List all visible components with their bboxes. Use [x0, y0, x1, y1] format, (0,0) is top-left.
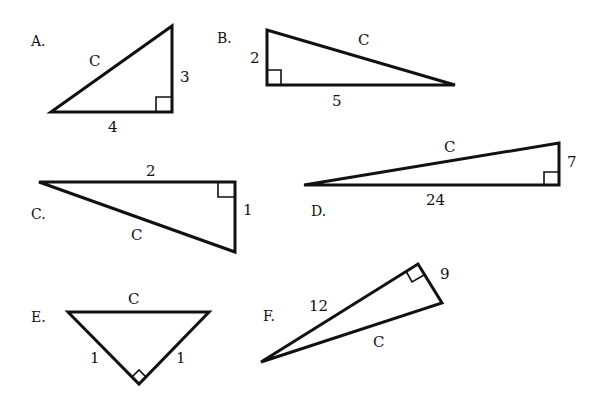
triangle-c: C. 2 1 C: [31, 162, 253, 252]
triangle-c-vertical-leg-label: 1: [243, 201, 253, 219]
right-angle-marker: [267, 70, 281, 85]
triangle-f: F. 12 9 C: [261, 264, 450, 362]
triangle-f-shape: [261, 264, 442, 362]
triangle-c-hypotenuse-label: C: [131, 226, 142, 244]
triangle-d-label: D.: [311, 203, 326, 219]
right-triangles-diagram: A. C 3 4 B. C 2 5 C. 2 1 C D. C 7 24 E. …: [0, 0, 601, 408]
triangle-b-hypotenuse-label: C: [358, 31, 369, 49]
triangle-b: B. C 2 5: [217, 30, 455, 110]
triangle-e-label: E.: [31, 309, 46, 325]
triangle-f-long-leg-label: 12: [309, 297, 328, 315]
triangle-e-right-leg-label: 1: [176, 349, 186, 367]
triangle-c-label: C.: [31, 206, 46, 222]
triangle-a-label: A.: [30, 33, 46, 49]
triangle-e: E. C 1 1: [31, 290, 209, 384]
triangle-d-hypotenuse-label: C: [444, 138, 455, 156]
triangle-b-horizontal-leg-label: 5: [332, 92, 342, 110]
triangle-d: D. C 7 24: [304, 138, 577, 219]
right-angle-marker: [132, 370, 146, 377]
triangle-e-hypotenuse-label: C: [128, 290, 139, 308]
triangle-b-label: B.: [217, 30, 232, 46]
triangle-a-hypotenuse-label: C: [89, 52, 100, 70]
triangle-d-horizontal-leg-label: 24: [426, 191, 445, 209]
triangle-f-short-leg-label: 9: [440, 265, 450, 283]
triangle-f-hypotenuse-label: C: [373, 333, 384, 351]
triangle-f-label: F.: [263, 308, 275, 324]
right-angle-marker: [156, 97, 172, 112]
triangle-a-horizontal-leg-label: 4: [108, 118, 118, 136]
triangle-e-left-leg-label: 1: [90, 349, 100, 367]
triangle-c-horizontal-leg-label: 2: [146, 162, 156, 180]
triangle-e-shape: [68, 312, 209, 384]
right-angle-marker: [544, 172, 559, 185]
right-angle-marker: [218, 182, 235, 197]
triangle-a: A. C 3 4: [30, 26, 190, 136]
triangle-d-vertical-leg-label: 7: [567, 153, 577, 171]
triangle-d-shape: [304, 143, 559, 185]
triangle-a-vertical-leg-label: 3: [180, 68, 190, 86]
triangle-a-shape: [51, 26, 172, 112]
triangle-b-vertical-leg-label: 2: [250, 49, 260, 67]
right-angle-marker: [406, 271, 424, 282]
